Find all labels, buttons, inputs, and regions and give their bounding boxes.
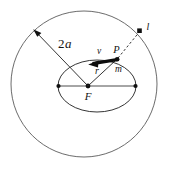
label-focus: F (84, 90, 92, 102)
label-angular-momentum: l (147, 21, 150, 32)
orbit-diagram-svg: 2a v P m r F l (0, 0, 170, 172)
label-point-p: P (112, 44, 120, 55)
label-radius: r (95, 65, 99, 76)
left-vertex-dot (56, 84, 60, 88)
label-semi-major: 2a (58, 36, 72, 51)
right-vertex-dot (133, 84, 137, 88)
angular-momentum-marker (137, 28, 142, 33)
orbit-diagram-figure: 2a v P m r F l (0, 0, 170, 172)
label-mass: m (115, 64, 122, 74)
